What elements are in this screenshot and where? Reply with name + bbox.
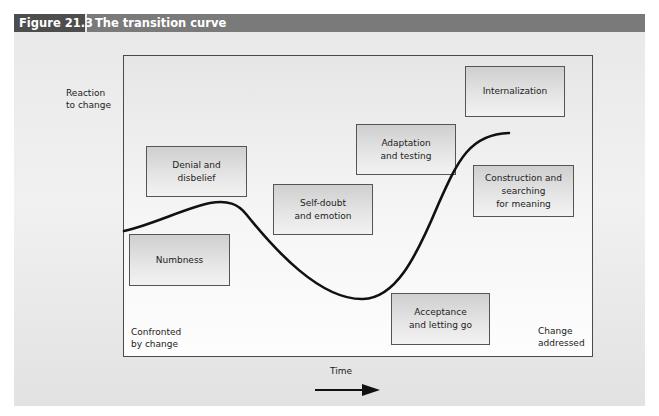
time-arrow-icon	[0, 0, 659, 416]
